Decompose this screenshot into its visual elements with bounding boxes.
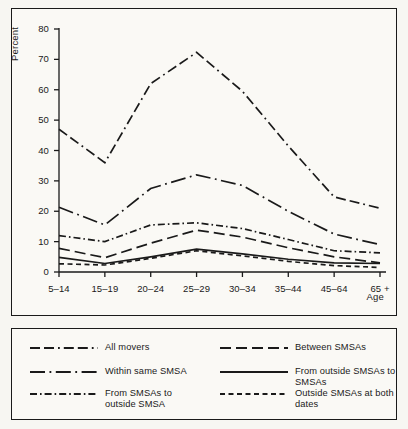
y-tick-label: 50 <box>27 114 49 125</box>
legend-item: Outside SMSAs at both dates <box>220 387 396 409</box>
legend-item: Within same SMSA <box>30 365 187 378</box>
legend-label: From SMSAs to outside SMSA <box>105 387 172 409</box>
legend-label: Between SMSAs <box>295 341 366 353</box>
legend-line-swatch-icon <box>220 342 288 354</box>
legend-line-swatch-icon <box>220 366 288 378</box>
legend-item: From SMSAs to outside SMSA <box>30 387 172 409</box>
legend-line-swatch-icon <box>30 388 98 400</box>
series-line-4 <box>59 223 380 253</box>
legend-panel: All moversBetween SMSAsWithin same SMSAF… <box>11 328 397 420</box>
legend-label: From outside SMSAs to SMSAs <box>295 365 396 387</box>
x-tick-label: 65 + <box>353 283 407 294</box>
line-chart-plot <box>12 9 398 317</box>
y-tick-label: 80 <box>27 23 49 34</box>
y-tick-label: 70 <box>27 53 49 64</box>
y-tick-label: 10 <box>27 236 49 247</box>
legend-label: Within same SMSA <box>105 365 187 377</box>
figure-container: Percent Age 010203040506070805–1415–1920… <box>0 0 408 429</box>
legend-line-swatch-icon <box>30 366 98 378</box>
series-line-1 <box>59 230 380 263</box>
legend-line-swatch-icon <box>30 342 98 354</box>
legend-item: Between SMSAs <box>220 341 366 354</box>
series-line-0 <box>59 52 380 208</box>
legend-label: All movers <box>105 341 149 353</box>
y-tick-label: 30 <box>27 175 49 186</box>
y-tick-label: 40 <box>27 145 49 156</box>
series-line-5 <box>59 251 380 268</box>
legend-item: From outside SMSAs to SMSAs <box>220 365 396 387</box>
legend-label: Outside SMSAs at both dates <box>295 387 396 409</box>
y-tick-label: 0 <box>27 266 49 277</box>
legend-item: All movers <box>30 341 149 354</box>
y-tick-label: 20 <box>27 205 49 216</box>
chart-panel: Percent Age 010203040506070805–1415–1920… <box>11 8 397 316</box>
legend-line-swatch-icon <box>220 388 288 400</box>
y-tick-label: 60 <box>27 84 49 95</box>
